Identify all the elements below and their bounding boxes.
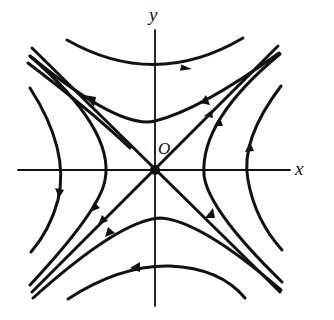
arrow-icon [205,208,215,218]
trajectory-bottom-inner [33,218,281,298]
trajectory-right-inner [204,54,282,282]
arrow-icon [245,142,254,152]
trajectory-right-outer [247,86,282,250]
x-axis-label: x [295,159,303,178]
diagram-canvas [0,0,334,320]
origin-point [150,165,160,175]
trajectory-bottom-outer [68,266,245,299]
arrow-icon [55,188,64,198]
y-axis-label: y [149,5,157,24]
arrow-icon [179,63,192,71]
phase-portrait: y x O [0,0,334,320]
origin-label: O [158,140,170,157]
arrow-icon [90,202,100,212]
